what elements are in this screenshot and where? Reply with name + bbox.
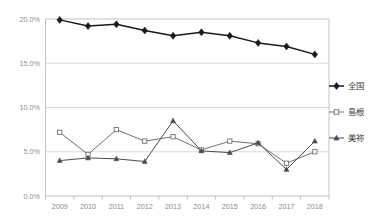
data-point-marker (58, 130, 62, 134)
data-point-marker (171, 135, 175, 139)
x-axis-tick-label: 2015 (222, 202, 238, 211)
x-axis-tick-label: 2016 (250, 202, 266, 211)
x-axis-tick-label: 2012 (137, 202, 153, 211)
data-point-marker (284, 161, 288, 165)
x-axis-labels: 2009201020112012201320142015201620172018 (46, 196, 330, 211)
series-1 (57, 16, 318, 58)
data-point-marker (199, 29, 204, 36)
data-point-marker (284, 43, 289, 50)
series-line (60, 20, 315, 55)
data-point-marker (228, 139, 232, 143)
line-chart: 0.0%5.0%10.0%15.0%20.0% 2009201020112012… (0, 0, 384, 223)
chart-legend: 全国島根美祢 (329, 81, 365, 143)
data-point-marker (114, 127, 118, 131)
series-3 (57, 118, 317, 171)
x-axis-tick-label: 2009 (52, 202, 68, 211)
data-point-marker (312, 51, 317, 58)
x-axis-tick-label: 2013 (165, 202, 181, 211)
data-point-marker (170, 32, 175, 39)
legend-label-3: 美祢 (348, 133, 364, 143)
y-axis-tick-label: 20.0% (20, 15, 41, 24)
data-point-marker (57, 16, 62, 23)
data-point-marker (312, 138, 317, 143)
data-point-marker (85, 23, 90, 30)
x-axis-tick-label: 2017 (278, 202, 294, 211)
y-axis-labels: 0.0%5.0%10.0%15.0%20.0% (20, 15, 41, 201)
chart-container: 0.0%5.0%10.0%15.0%20.0% 2009201020112012… (0, 0, 384, 223)
data-point-marker (255, 39, 260, 46)
x-axis-tick-label: 2018 (307, 202, 323, 211)
y-axis-tick-label: 5.0% (24, 147, 41, 156)
data-point-marker (334, 83, 339, 90)
data-point-marker (142, 27, 147, 34)
data-point-marker (143, 139, 147, 143)
series-2 (58, 127, 317, 165)
y-axis-tick-label: 0.0% (24, 192, 41, 201)
data-point-marker (227, 32, 232, 39)
y-axis-tick-label: 10.0% (20, 103, 41, 112)
x-axis-tick-label: 2010 (80, 202, 96, 211)
data-point-marker (171, 118, 176, 123)
legend-label-2: 島根 (348, 107, 365, 117)
y-axis-tick-label: 15.0% (20, 59, 41, 68)
x-axis-tick-label: 2014 (193, 202, 209, 211)
data-point-marker (114, 21, 119, 28)
x-axis-tick-label: 2011 (109, 202, 124, 211)
data-point-marker (334, 110, 339, 115)
data-series (57, 16, 318, 171)
legend-label-1: 全国 (348, 81, 364, 91)
data-point-marker (313, 150, 317, 154)
